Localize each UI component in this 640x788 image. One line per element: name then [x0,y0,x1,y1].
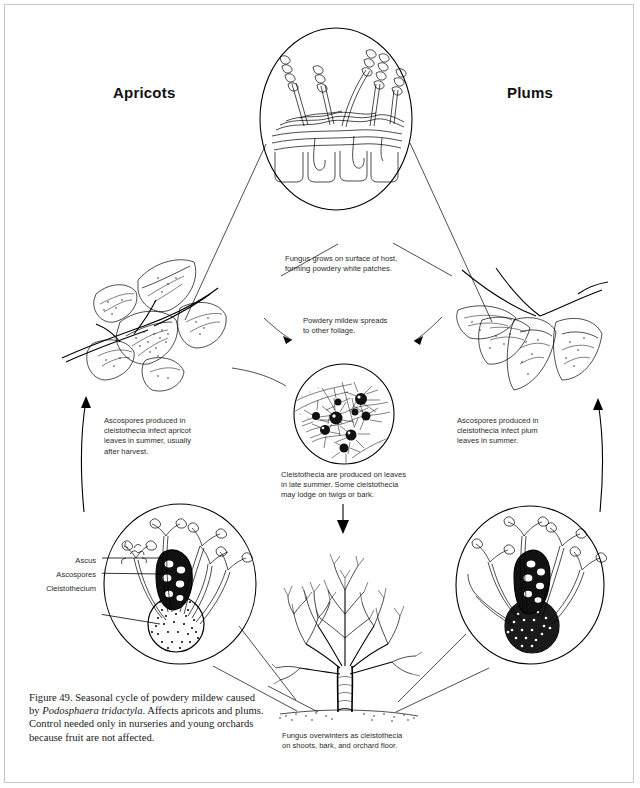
note-ascospores-plum: Ascospores produced in cleistothecia inf… [457,416,577,447]
note-mildew-spreads: Powdery mildew spreads to other foilage. [303,316,433,336]
callout-label-cleistothecium: Cleistothecium [4,584,96,594]
note-fungus-grows: Fungus grows on surface of host, forming… [285,254,445,274]
note-cleistothecia-produced: Cleistothecia are produced on leaves in … [281,470,433,501]
illustration-dormant-tree [272,534,422,722]
inset-conidiophores-illustration [258,26,414,212]
illustration-apricot-foliage [58,238,238,398]
page-border [4,4,634,783]
figure-powdery-mildew-cycle: Apricots Plums Fungus grows on surface o… [0,0,640,788]
note-fungus-overwinters: Fungus overwinters as cleistothecia on s… [282,731,442,751]
illustration-plum-foliage [452,266,612,406]
figure-caption: Figure 49. Seasonal cycle of powdery mil… [29,691,267,744]
inset-cleistothecium-right [452,504,608,666]
caption-species-name: Podosphaera tridactyla [42,705,142,716]
callout-label-ascus: Ascus [20,556,96,566]
cycle-connector-lines [0,0,640,788]
callout-label-ascospores: Ascospores [14,570,96,580]
inset-cleistothecium-left [102,502,258,666]
host-label-plums: Plums [507,84,553,101]
host-label-apricots: Apricots [113,84,175,101]
note-ascospores-apricot: Ascospores produced in cleistothecia inf… [104,416,222,457]
inset-cleistothecia-on-leaf [292,362,396,466]
